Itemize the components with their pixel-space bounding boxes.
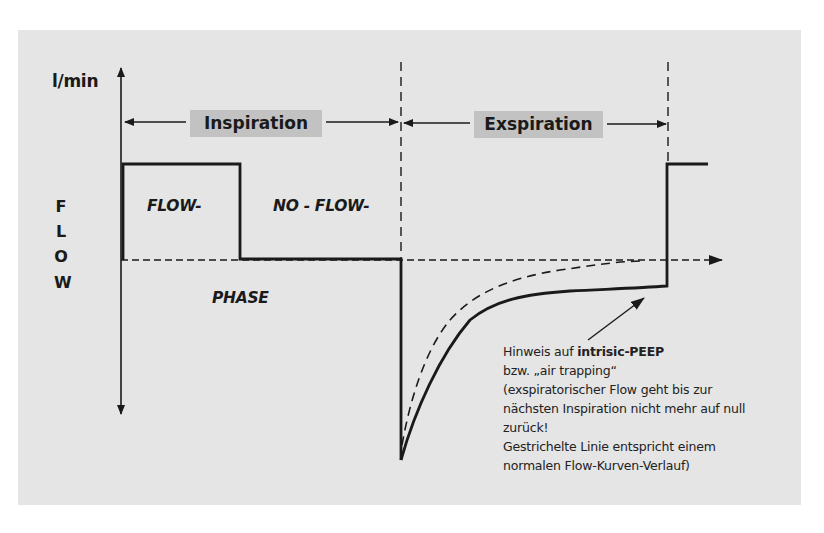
no-flow-phase-label: NO - FLOW- [273,197,369,215]
annotation-line-2: bzw. „air trapping“ [503,361,745,380]
flow-phase-label: FLOW- [147,197,201,215]
inspiration-label: Inspiration [190,110,322,137]
annotation-line-3: (exspiratorischer Flow geht bis zur [503,380,745,399]
annotation-line-1: Hinweis auf intrisic-PEEP [503,342,745,361]
annotation-pointer-arrow [588,298,644,340]
annotation-line-7: normalen Flow-Kurven-Verlauf) [503,456,745,475]
phase-label: PHASE [212,289,269,307]
y-axis-title-letter-f: F [54,197,68,216]
y-axis-unit-label: l/min [52,71,98,91]
y-axis-title-letter-w: W [54,273,68,292]
annotation-intrinsic-peep: intrisic-PEEP [577,344,664,359]
annotation-line-6: Gestrichelte Linie entspricht einem [503,437,745,456]
y-axis-title-letter-l: L [54,222,68,241]
annotation-line-4: nächsten Inspiration nicht mehr auf null [503,399,745,418]
y-axis-title-letter-o: O [54,247,68,266]
air-trapping-annotation: Hinweis auf intrisic-PEEP bzw. „air trap… [503,342,745,475]
expiration-label: Exspiration [474,111,603,138]
annotation-line-5: zurück! [503,418,745,437]
annotation-prefix: Hinweis auf [503,344,577,359]
